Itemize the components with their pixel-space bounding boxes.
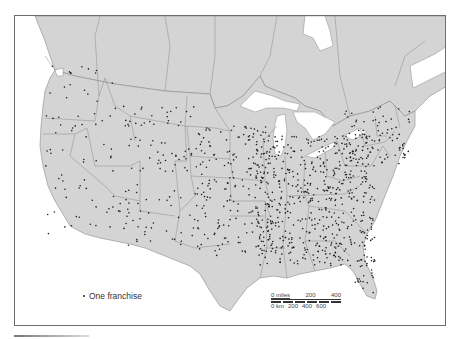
- scale-km-tick-200: 200: [288, 303, 298, 309]
- scale-miles-label: 0 miles: [271, 292, 290, 298]
- scale-miles-bar: [271, 299, 341, 300]
- scale-bar: 0 miles 200 400 0 km 200 400 600: [271, 292, 351, 312]
- scale-km-row: 0 km 200 400 600: [271, 303, 326, 309]
- franchise-dot-map: [15, 16, 446, 326]
- scale-km-tick-600: 600: [316, 303, 326, 309]
- scale-miles-tick-200: 200: [305, 292, 315, 298]
- franchise-dot-icon: [83, 295, 85, 297]
- map-frame: One franchise 0 miles 200 400 0 km 200 4…: [14, 15, 446, 326]
- map-legend: One franchise: [83, 291, 142, 301]
- bottom-rule: [14, 335, 89, 337]
- legend-label: One franchise: [89, 291, 142, 301]
- scale-miles-tick-400: 400: [331, 292, 341, 298]
- scale-km-tick-400: 400: [302, 303, 312, 309]
- scale-miles-row: 0 miles 200 400: [271, 292, 341, 298]
- scale-km-label: 0 km: [271, 303, 284, 309]
